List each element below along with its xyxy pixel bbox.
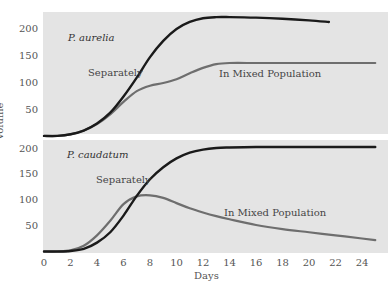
ytick-bottom-200: 200 <box>8 143 38 154</box>
plot-area <box>0 0 392 284</box>
label-bottom-mixed: In Mixed Population <box>224 207 326 218</box>
title-p-aurelia: P. aurelia <box>68 32 115 43</box>
xtick-0: 0 <box>34 257 54 268</box>
xtick-4: 4 <box>87 257 107 268</box>
y-axis-label: Volume <box>0 103 5 140</box>
ytick-bottom-50: 50 <box>8 220 38 231</box>
ytick-top-200: 200 <box>8 23 38 34</box>
xtick-12: 12 <box>193 257 213 268</box>
xtick-18: 18 <box>273 257 293 268</box>
label-top-mixed: In Mixed Population <box>219 68 321 79</box>
xtick-2: 2 <box>61 257 81 268</box>
ytick-top-50: 50 <box>8 104 38 115</box>
xtick-16: 16 <box>246 257 266 268</box>
xtick-22: 22 <box>326 257 346 268</box>
xtick-6: 6 <box>114 257 134 268</box>
xtick-14: 14 <box>220 257 240 268</box>
label-bottom-separately: Separately <box>96 174 151 185</box>
title-p-caudatum: P. caudatum <box>67 149 128 160</box>
bottom-curves <box>44 147 375 252</box>
ytick-top-100: 100 <box>8 77 38 88</box>
label-top-separately: Separately <box>88 67 143 78</box>
xtick-24: 24 <box>352 257 372 268</box>
xtick-10: 10 <box>167 257 187 268</box>
x-axis-label: Days <box>194 270 219 281</box>
xtick-8: 8 <box>140 257 160 268</box>
ytick-top-150: 150 <box>8 50 38 61</box>
ytick-bottom-100: 100 <box>8 194 38 205</box>
curve-in-mixed-population <box>44 195 375 251</box>
xtick-20: 20 <box>299 257 319 268</box>
ytick-bottom-150: 150 <box>8 168 38 179</box>
curve-separately <box>44 147 375 252</box>
